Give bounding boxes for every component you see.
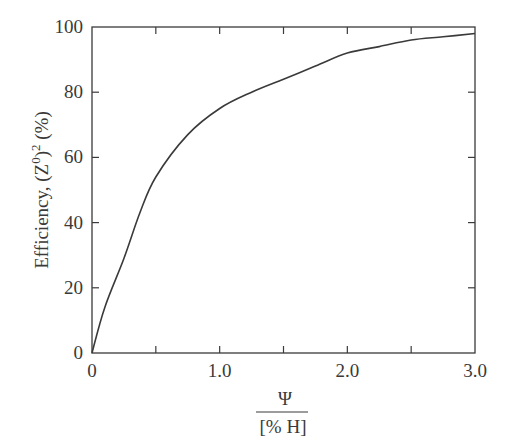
x-axis-title-numerator: Ψ [278, 388, 292, 409]
x-tick-label: 0 [87, 360, 97, 381]
efficiency-curve [92, 34, 475, 354]
efficiency-chart: 020406080100 01.02.03.0 Efficiency, (Z0)… [0, 0, 509, 448]
y-axis-title: Efficiency, (Z0)2 (%) [28, 111, 53, 269]
y-tick-label: 0 [74, 342, 84, 363]
y-axis-title-text: Efficiency, (Z0)2 (%) [28, 111, 53, 269]
x-tick-labels: 01.02.03.0 [87, 360, 487, 381]
y-tick-labels: 020406080100 [55, 16, 84, 363]
y-tick-label: 60 [64, 146, 83, 167]
x-axis-title: Ψ [% H] [256, 388, 308, 437]
x-tick-label: 2.0 [335, 360, 359, 381]
y-tick-label: 100 [55, 16, 84, 37]
x-tick-label: 1.0 [208, 360, 232, 381]
y-tick-label: 40 [64, 212, 83, 233]
x-axis-title-denominator: [% H] [260, 416, 307, 437]
y-tick-label: 20 [64, 277, 83, 298]
y-tick-label: 80 [64, 81, 83, 102]
x-tick-label: 3.0 [463, 360, 487, 381]
